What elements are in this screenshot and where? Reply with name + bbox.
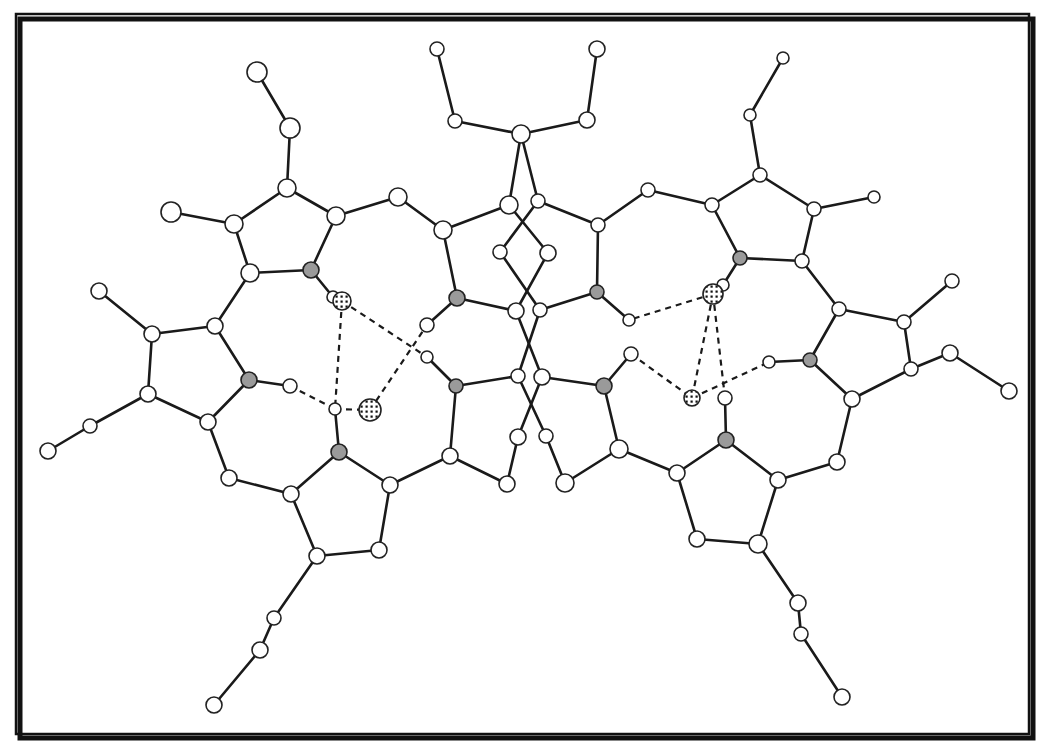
carbon-atom bbox=[434, 221, 452, 239]
bond-line bbox=[450, 386, 456, 456]
carbon-atom bbox=[508, 303, 524, 319]
bond-line bbox=[443, 230, 457, 298]
carbon-atom bbox=[844, 391, 860, 407]
hydrogen-bond-line bbox=[629, 294, 713, 320]
carbon-atom bbox=[904, 362, 918, 376]
hydrogen-atom bbox=[329, 403, 341, 415]
hydrogen-atom bbox=[763, 356, 775, 368]
nitrogen-atom bbox=[241, 372, 257, 388]
bond-line bbox=[443, 205, 509, 230]
bond-line bbox=[208, 422, 229, 478]
bond-line bbox=[274, 556, 317, 618]
bond-line bbox=[802, 209, 814, 261]
carbon-atom bbox=[500, 196, 518, 214]
carbon-atom bbox=[834, 689, 850, 705]
bond-line bbox=[648, 190, 712, 205]
bond-line bbox=[726, 440, 778, 480]
carbon-atom bbox=[267, 611, 281, 625]
bond-line bbox=[456, 376, 518, 386]
bond-line bbox=[540, 292, 597, 310]
nitrogen-atom bbox=[733, 251, 747, 265]
bond-line bbox=[214, 650, 260, 705]
carbon-atom bbox=[382, 477, 398, 493]
carbon-atom bbox=[807, 202, 821, 216]
hydrogen-atom bbox=[283, 379, 297, 393]
bond-line bbox=[339, 452, 390, 485]
carbon-atom bbox=[753, 168, 767, 182]
bond-line bbox=[148, 334, 152, 394]
nitrogen-atom bbox=[449, 290, 465, 306]
carbon-atom bbox=[669, 465, 685, 481]
carbon-atom bbox=[689, 531, 705, 547]
bond-line bbox=[852, 369, 911, 399]
carbon-atom bbox=[499, 476, 515, 492]
carbon-atom bbox=[144, 326, 160, 342]
bond-line bbox=[90, 394, 148, 426]
carbon-atom bbox=[540, 245, 556, 261]
bond-line bbox=[758, 480, 778, 544]
bond-line bbox=[598, 190, 648, 225]
carbon-atom bbox=[610, 440, 628, 458]
oxygen-atom bbox=[684, 390, 700, 406]
carbon-atom bbox=[225, 215, 243, 233]
bond-line bbox=[521, 134, 538, 201]
carbon-atom bbox=[140, 386, 156, 402]
bond-line bbox=[802, 261, 839, 309]
bond-line bbox=[712, 175, 760, 205]
bond-line bbox=[750, 115, 760, 175]
carbon-atom bbox=[161, 202, 181, 222]
carbon-atom bbox=[744, 109, 756, 121]
bond-line bbox=[839, 309, 904, 322]
nitrogen-atom bbox=[449, 379, 463, 393]
bond-line bbox=[760, 175, 814, 209]
oxygen-atom bbox=[703, 284, 723, 304]
hydrogen-atom bbox=[623, 314, 635, 326]
bond-line bbox=[538, 201, 598, 225]
carbon-atom bbox=[589, 41, 605, 57]
carbon-atom bbox=[591, 218, 605, 232]
carbon-atom bbox=[91, 283, 107, 299]
bond-line bbox=[712, 205, 740, 258]
carbon-atom bbox=[200, 414, 216, 430]
carbon-atom bbox=[448, 114, 462, 128]
carbon-atom bbox=[442, 448, 458, 464]
hydrogen-atom bbox=[421, 351, 433, 363]
hydrogen-bond-line bbox=[335, 301, 342, 409]
bond-line bbox=[450, 456, 507, 484]
carbon-atom bbox=[252, 642, 268, 658]
carbon-atom bbox=[512, 125, 530, 143]
hydrogen-atom bbox=[718, 391, 732, 405]
carbon-atom bbox=[705, 198, 719, 212]
carbon-atom bbox=[278, 179, 296, 197]
bond-line bbox=[457, 298, 516, 311]
carbon-atom bbox=[531, 194, 545, 208]
carbon-atom bbox=[641, 183, 655, 197]
carbon-atom bbox=[207, 318, 223, 334]
carbon-atom bbox=[511, 369, 525, 383]
nitrogen-atom bbox=[803, 353, 817, 367]
carbon-atom bbox=[430, 42, 444, 56]
carbon-atom bbox=[832, 302, 846, 316]
hydrogen-bond-line bbox=[631, 354, 692, 398]
carbon-atom bbox=[247, 62, 267, 82]
carbon-atom bbox=[493, 245, 507, 259]
carbon-atom bbox=[794, 627, 808, 641]
carbon-atom bbox=[868, 191, 880, 203]
carbon-atom bbox=[770, 472, 786, 488]
bond-line bbox=[837, 399, 852, 462]
atoms bbox=[40, 41, 1017, 713]
bond-line bbox=[509, 134, 521, 205]
carbon-atom bbox=[795, 254, 809, 268]
carbon-atom bbox=[510, 429, 526, 445]
bond-line bbox=[950, 353, 1009, 391]
bond-line bbox=[148, 394, 208, 422]
molecular-structure-figure bbox=[0, 0, 1045, 749]
carbon-atom bbox=[942, 345, 958, 361]
bond-line bbox=[521, 120, 587, 134]
bond-line bbox=[379, 485, 390, 550]
nitrogen-atom bbox=[718, 432, 734, 448]
carbon-atom bbox=[534, 369, 550, 385]
bond-line bbox=[778, 462, 837, 480]
nitrogen-atom bbox=[596, 378, 612, 394]
bond-line bbox=[814, 197, 874, 209]
